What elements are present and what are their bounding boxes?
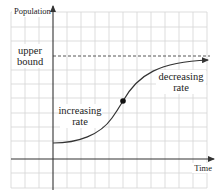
increasing-rate-label-line1: increasing <box>58 105 102 116</box>
upper-bound-label-line2: bound <box>17 56 44 67</box>
x-axis-label: Time <box>194 163 212 173</box>
upper-bound-label-line1: upper <box>18 45 42 56</box>
decreasing-rate-label-line1: decreasing <box>159 71 205 82</box>
logistic-growth-diagram: Population upper bound increasing rate d… <box>0 0 222 196</box>
inflection-point <box>120 98 126 104</box>
increasing-rate-label-line2: rate <box>72 116 88 127</box>
y-axis-label: Population <box>14 6 52 16</box>
decreasing-rate-label-line2: rate <box>173 82 189 93</box>
grid <box>11 12 207 188</box>
